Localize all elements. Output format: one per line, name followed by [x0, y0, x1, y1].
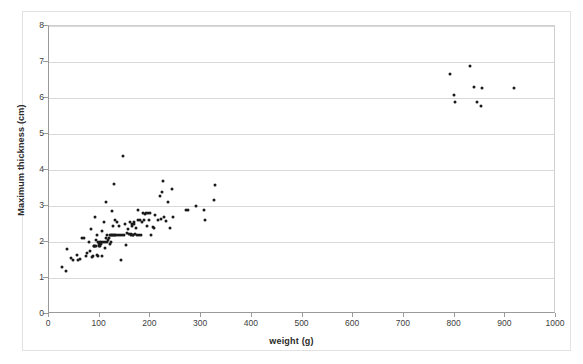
- x-tick-mark-600: [352, 313, 353, 317]
- x-tick-mark-300: [200, 313, 201, 317]
- x-tick-mark-700: [403, 313, 404, 317]
- x-tick-label-800: 800: [447, 318, 461, 328]
- x-tick-mark-0: [48, 313, 49, 317]
- x-axis-ticks: 01002003004005006007008009001000: [0, 0, 583, 364]
- x-tick-mark-400: [251, 313, 252, 317]
- x-tick-label-1000: 1000: [546, 318, 565, 328]
- x-tick-label-600: 600: [345, 318, 359, 328]
- x-tick-label-700: 700: [396, 318, 410, 328]
- x-tick-mark-500: [302, 313, 303, 317]
- scatter-plot-figure: 012345678 010020030040050060070080090010…: [0, 0, 583, 364]
- x-tick-mark-900: [504, 313, 505, 317]
- x-tick-label-0: 0: [46, 318, 51, 328]
- x-axis-title: weight (g): [0, 336, 583, 346]
- x-tick-label-100: 100: [92, 318, 106, 328]
- x-tick-label-500: 500: [294, 318, 308, 328]
- x-tick-mark-100: [99, 313, 100, 317]
- x-tick-mark-1000: [555, 313, 556, 317]
- y-axis-title: Maximum thickness (cm): [16, 65, 26, 255]
- x-tick-mark-800: [454, 313, 455, 317]
- x-tick-label-900: 900: [497, 318, 511, 328]
- x-tick-label-300: 300: [193, 318, 207, 328]
- x-tick-label-400: 400: [244, 318, 258, 328]
- x-tick-mark-200: [149, 313, 150, 317]
- x-tick-label-200: 200: [142, 318, 156, 328]
